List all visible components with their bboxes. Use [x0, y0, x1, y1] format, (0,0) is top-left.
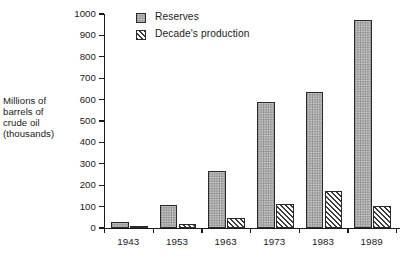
legend-item-reserves: Reserves — [136, 9, 249, 26]
bar-decade-s-production-1989 — [373, 206, 391, 228]
x-tick-label-1943: 1943 — [106, 236, 150, 247]
bar-reserves-1983 — [306, 92, 324, 228]
x-axis-line — [104, 228, 400, 229]
y-tick-label: 500 — [56, 116, 96, 126]
y-tick-label: 900 — [56, 30, 96, 40]
bar-decade-s-production-1963 — [227, 218, 245, 228]
y-tick-label: 400 — [56, 137, 96, 147]
bar-reserves-1973 — [257, 102, 275, 228]
x-tick-label-1983: 1983 — [301, 236, 345, 247]
bar-chart-figure: Millions of barrels of crude oil (thousa… — [0, 0, 414, 263]
legend-label-reserves: Reserves — [155, 12, 199, 22]
y-tick-label: 200 — [56, 180, 96, 190]
y-tick-label: 0 — [56, 223, 96, 233]
legend-item-decades-production: Decade's production — [136, 26, 249, 43]
bar-decade-s-production-1953 — [179, 224, 197, 228]
legend-label-decades-production: Decade's production — [155, 29, 249, 39]
x-tick-label-1989: 1989 — [350, 236, 394, 247]
bar-decade-s-production-1983 — [325, 191, 343, 228]
y-tick-label: 600 — [56, 95, 96, 105]
x-tick-mark — [347, 228, 348, 233]
legend-swatch-decades-production-icon — [136, 30, 146, 40]
bar-decade-s-production-1973 — [276, 204, 294, 228]
x-tick-mark — [396, 228, 397, 233]
bar-reserves-1989 — [354, 20, 372, 228]
x-tick-mark — [250, 228, 251, 233]
x-tick-label-1953: 1953 — [155, 236, 199, 247]
plot-area — [104, 14, 396, 228]
x-tick-mark — [104, 228, 105, 233]
y-tick-label: 800 — [56, 52, 96, 62]
x-tick-mark — [299, 228, 300, 233]
y-tick-label: 700 — [56, 73, 96, 83]
legend-swatch-reserves-icon — [136, 13, 146, 23]
bar-reserves-1963 — [208, 171, 226, 228]
x-tick-mark — [201, 228, 202, 233]
y-tick-label: 100 — [56, 202, 96, 212]
bar-decade-s-production-1943 — [130, 226, 148, 228]
bar-reserves-1943 — [111, 222, 129, 228]
x-tick-label-1973: 1973 — [252, 236, 296, 247]
x-tick-label-1963: 1963 — [204, 236, 248, 247]
chart-legend: Reserves Decade's production — [136, 9, 249, 43]
y-tick-label: 300 — [56, 159, 96, 169]
x-tick-mark — [153, 228, 154, 233]
bar-reserves-1953 — [160, 205, 178, 228]
y-tick-label: 1000 — [56, 9, 96, 19]
